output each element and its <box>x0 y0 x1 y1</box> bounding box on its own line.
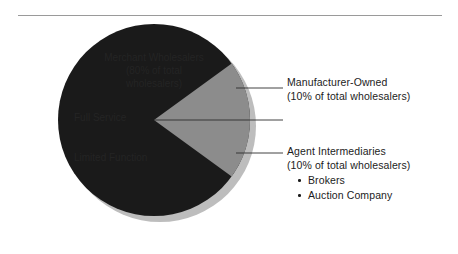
callout-agent-share: (10% of total wholesalers) <box>287 159 410 173</box>
callout-manufacturer-share: (10% of total wholesalers) <box>287 90 410 104</box>
callout-agent-bullet-1: Auction Company <box>308 189 392 201</box>
list-item: Auction Company <box>287 188 410 203</box>
pie-label-full-service: Full Service <box>74 111 204 124</box>
bullet-dot-icon <box>298 194 301 197</box>
callout-manufacturer-owned: Manufacturer-Owned (10% of total wholesa… <box>287 76 410 103</box>
pie-label-merchant-line3: wholesalers) <box>64 77 244 90</box>
figure-pie-wholesaler-types: Merchant Wholesalers (80% of total whole… <box>0 0 458 254</box>
list-item: Brokers <box>287 173 410 188</box>
callout-agent-title: Agent Intermediaries <box>287 145 386 157</box>
bullet-dot-icon <box>298 179 301 182</box>
pie-label-merchant-line2: (80% of total <box>64 64 244 77</box>
pie-label-merchant-wholesalers: Merchant Wholesalers (80% of total whole… <box>64 51 244 90</box>
pie-label-merchant-line1: Merchant Wholesalers <box>104 52 203 63</box>
callout-agent-bullets: Brokers Auction Company <box>287 173 410 203</box>
callout-agent-bullet-0: Brokers <box>308 174 345 186</box>
callout-manufacturer-title: Manufacturer-Owned <box>287 76 387 88</box>
pie-chart-graphic <box>0 0 458 254</box>
pie-label-limited-function: Limited Function <box>74 151 214 164</box>
callout-agent-intermediaries: Agent Intermediaries (10% of total whole… <box>287 145 410 203</box>
